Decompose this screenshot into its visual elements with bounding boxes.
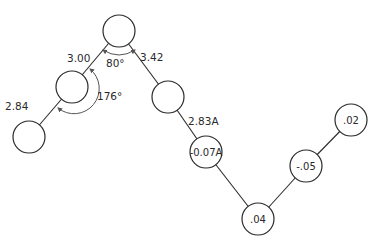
atom-charge-label: -.05 [296,161,316,172]
atom-charge-label: .02 [343,115,359,126]
bond-length-label: 3.00 [67,52,90,64]
atom-charge-label: -0.07A [190,147,223,158]
bond-length-label: 3.42 [140,51,163,63]
atom-circle [152,81,184,113]
atom-charge-label: .04 [250,214,266,225]
bond-length-label: 2.83A [188,115,219,127]
atom-circle [56,71,88,103]
atom-circle [103,15,135,47]
angle-80-label: 80° [106,57,125,69]
bond-length-label: 2.84 [5,100,29,112]
atom-circle [13,121,45,153]
molecular-chain-diagram: -0.07A.04-.05.02 2.843.003.422.83A 80°17… [0,0,380,248]
angle-labels: 80°176° [97,57,125,102]
angle-arc-80 [103,50,135,55]
angle-176-label: 176° [97,90,122,102]
